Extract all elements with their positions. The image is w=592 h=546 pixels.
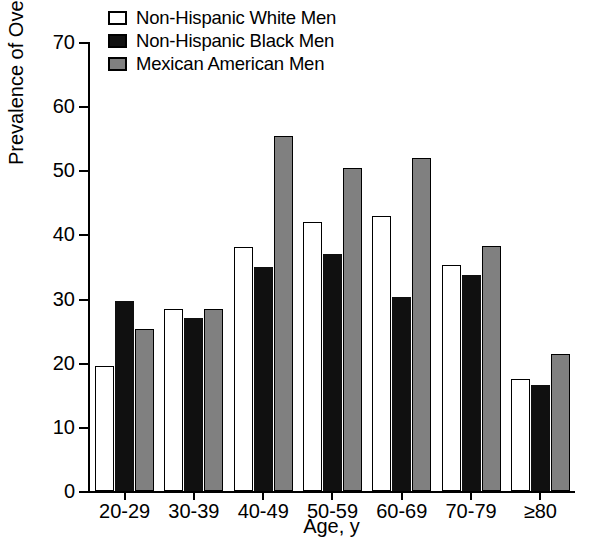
y-tick-mark: [79, 427, 88, 429]
plot-area: 010203040506070 20-2930-3940-4950-5960-6…: [88, 42, 575, 491]
bar: [442, 265, 461, 491]
y-tick-label: 40: [53, 223, 75, 246]
y-tick-mark: [79, 170, 88, 172]
y-tick-mark: [79, 299, 88, 301]
bar-group: ≥80: [506, 42, 575, 491]
white-swatch-icon: [108, 11, 127, 25]
legend-item-non-hispanic-white-men: Non-Hispanic White Men: [108, 6, 398, 29]
bar: [482, 246, 501, 491]
bar: [372, 216, 391, 491]
y-tick-mark: [79, 234, 88, 236]
bar: [115, 301, 134, 491]
y-tick-label: 0: [64, 480, 75, 503]
y-tick-label: 20: [53, 351, 75, 374]
bar: [551, 354, 570, 491]
bar: [274, 136, 293, 491]
y-tick-label: 50: [53, 159, 75, 182]
bar-group: 70-79: [436, 42, 505, 491]
bar: [164, 309, 183, 491]
y-tick-mark: [79, 106, 88, 108]
bar: [303, 222, 322, 491]
bar: [135, 329, 154, 491]
bar: [234, 247, 253, 491]
x-tick-mark: [331, 491, 333, 500]
bar-chart-figure: Non-Hispanic White Men Non-Hispanic Blac…: [0, 0, 592, 546]
bar: [323, 254, 342, 491]
bar-groups: 20-2930-3940-4950-5960-6970-79≥80: [90, 42, 575, 491]
bar: [462, 275, 481, 491]
legend-label: Non-Hispanic White Men: [136, 8, 336, 27]
x-tick-mark: [262, 491, 264, 500]
y-tick-label: 10: [53, 415, 75, 438]
bar-group: 30-39: [159, 42, 228, 491]
bar-group: 40-49: [229, 42, 298, 491]
bar: [184, 318, 203, 491]
y-tick-label: 30: [53, 287, 75, 310]
bar: [511, 379, 530, 491]
bar-group: 60-69: [367, 42, 436, 491]
bar: [392, 297, 411, 491]
x-tick-mark: [124, 491, 126, 500]
bar: [343, 168, 362, 491]
y-tick-mark: [79, 42, 88, 44]
x-axis-title: Age, y: [88, 515, 575, 538]
x-tick-mark: [470, 491, 472, 500]
x-tick-mark: [193, 491, 195, 500]
bar-group: 50-59: [298, 42, 367, 491]
x-tick-mark: [539, 491, 541, 500]
bar: [412, 158, 431, 491]
y-tick-mark: [79, 491, 88, 493]
bar: [204, 309, 223, 491]
y-tick-label: 70: [53, 31, 75, 54]
bar: [95, 366, 114, 491]
bar: [254, 267, 273, 492]
y-axis-title: Prevalence of Overweight, %: [5, 0, 28, 165]
y-tick-mark: [79, 363, 88, 365]
y-tick-label: 60: [53, 95, 75, 118]
bar: [531, 385, 550, 491]
x-tick-mark: [401, 491, 403, 500]
bar-group: 20-29: [90, 42, 159, 491]
